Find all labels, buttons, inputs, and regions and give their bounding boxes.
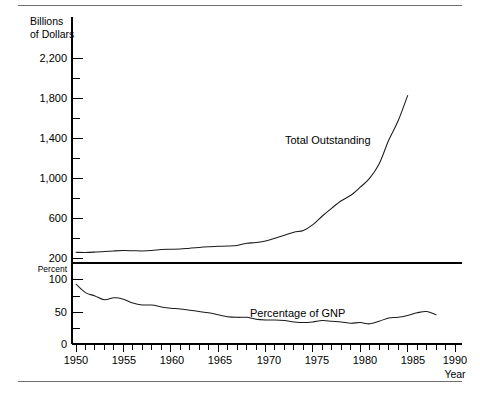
y-tick-label-1000: 1,000	[39, 172, 67, 184]
y-axis-ticks-billions	[72, 58, 83, 258]
y-tick-label-2200: 2,200	[39, 52, 67, 64]
y-tick-label-600: 600	[49, 212, 67, 224]
y-tick-label-50: 50	[55, 306, 67, 318]
x-tick-label-1975: 1975	[305, 354, 329, 366]
y-tick-label-200: 200	[49, 252, 67, 264]
x-tick-label-1985: 1985	[401, 354, 425, 366]
chart-figure: Billions of Dollars 2,200 1,800 1,400 1,…	[0, 0, 480, 393]
y-axis-caption-line2: of Dollars	[30, 28, 74, 40]
x-tick-label-1980: 1980	[353, 354, 377, 366]
chart-svg: Billions of Dollars 2,200 1,800 1,400 1,…	[0, 0, 480, 393]
x-tick-label-1960: 1960	[160, 354, 184, 366]
x-tick-label-1970: 1970	[257, 354, 281, 366]
x-tick-label-1955: 1955	[112, 354, 136, 366]
y-tick-label-1800: 1,800	[39, 92, 67, 104]
y-tick-label-0: 0	[61, 338, 67, 350]
y-axis-caption-line1: Billions	[30, 15, 63, 27]
x-axis-caption-year: Year	[444, 368, 466, 380]
y-tick-label-1400: 1,400	[39, 132, 67, 144]
series-label-percentage-of-gnp: Percentage of GNP	[250, 307, 345, 319]
y-tick-label-100: 100	[49, 273, 67, 285]
bottom-horizontal-rule	[18, 381, 462, 382]
x-tick-label-1990: 1990	[443, 354, 467, 366]
x-tick-label-1965: 1965	[208, 354, 232, 366]
series-line-total-outstanding	[76, 96, 408, 253]
series-label-total-outstanding: Total Outstanding	[285, 134, 371, 146]
x-tick-label-1950: 1950	[64, 354, 88, 366]
top-horizontal-rule	[18, 5, 462, 6]
